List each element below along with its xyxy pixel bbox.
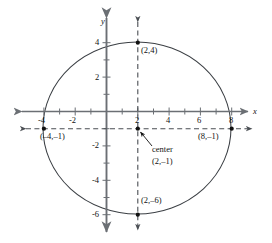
y-tick-label-4: 4 [95, 38, 99, 47]
x-tick-label-neg4: -4 [38, 116, 45, 125]
y-tick-label-neg2: -2 [92, 141, 99, 150]
point-label-right: (8,–1) [198, 132, 219, 141]
y-axis-label: y [101, 17, 105, 26]
y-tick-label-neg4: -4 [92, 176, 99, 185]
point-top-2-4 [136, 41, 140, 45]
x-tick-label-8: 8 [229, 116, 233, 125]
point-label-bottom: (2,–6) [141, 196, 162, 205]
x-tick-label-2: 2 [135, 116, 139, 125]
point-bottom-2-neg6 [136, 213, 140, 217]
point-label-left: (–4,–1) [40, 132, 65, 141]
y-tick-label-2: 2 [95, 73, 99, 82]
cropped-header-residue [62, 0, 64, 6]
x-tick-label-4: 4 [166, 116, 170, 125]
point-center-2-neg1 [136, 127, 140, 131]
center-callout-leader [141, 132, 153, 146]
ellipse-graph-figure: y x -4 -2 2 4 6 8 4 2 -2 -4 -6 (2,4) (2,… [0, 0, 272, 243]
y-tick-label-neg6: -6 [92, 210, 99, 219]
x-axis-label: x [253, 107, 257, 116]
center-callout-word: center [152, 145, 173, 154]
center-callout-coords: (2,–1) [152, 157, 173, 166]
x-tick-label-neg2: -2 [69, 116, 76, 125]
x-tick-label-6: 6 [197, 116, 201, 125]
point-label-top: (2,4) [141, 46, 157, 55]
point-right-8-neg1 [230, 127, 234, 131]
